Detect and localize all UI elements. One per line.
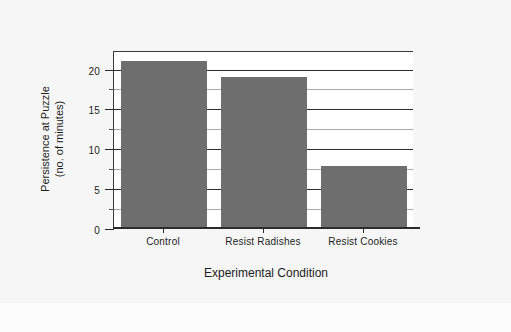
y-axis-tick-minor	[109, 209, 114, 210]
y-axis-tick-label: 10	[88, 145, 100, 156]
x-axis-tick	[363, 227, 364, 233]
y-axis-title-line2: (no. of minutes)	[52, 86, 66, 192]
y-axis-title: Persistence at Puzzle (no. of minutes)	[38, 86, 66, 192]
y-axis-title-line1: Persistence at Puzzle	[38, 86, 52, 192]
x-axis-category-label: Control	[146, 236, 180, 247]
y-axis-tick-label: 5	[94, 185, 100, 196]
bar	[121, 61, 208, 228]
bar	[321, 166, 408, 228]
x-axis-line	[113, 227, 420, 229]
y-axis-tick: 10	[105, 149, 114, 150]
x-axis-category-label: Resist Cookies	[328, 236, 398, 247]
y-axis-tick: 5	[105, 189, 114, 190]
y-axis-tick-label: 20	[88, 65, 100, 76]
bar	[221, 77, 308, 228]
x-axis-category-label: Resist Radishes	[225, 236, 300, 247]
y-axis-tick: 20	[105, 70, 114, 71]
y-axis-tick: 15	[105, 109, 114, 110]
y-axis-tick: 0	[105, 229, 114, 230]
plot-area: 05101520	[113, 51, 413, 228]
y-axis-tick-minor	[109, 89, 114, 90]
bar-chart-figure: Persistence at Puzzle (no. of minutes) 0…	[0, 0, 511, 332]
x-axis-tick	[263, 227, 264, 233]
x-axis-tick	[163, 227, 164, 233]
x-axis-title: Experimental Condition	[204, 266, 328, 280]
y-axis-tick-minor	[109, 169, 114, 170]
y-axis-tick-label: 0	[94, 225, 100, 236]
y-axis-tick-label: 15	[88, 105, 100, 116]
figure-background-lower	[0, 303, 511, 332]
y-axis-tick-minor	[109, 129, 114, 130]
